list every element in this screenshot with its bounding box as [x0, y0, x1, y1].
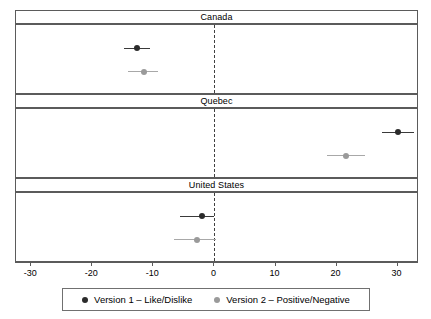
x-axis-tick	[30, 262, 31, 266]
x-axis-tick	[152, 262, 153, 266]
x-axis-tick	[336, 262, 337, 266]
legend-label: Version 1 – Like/Dislike	[94, 295, 192, 305]
x-axis-tick	[213, 262, 214, 266]
x-axis: -30-20-100102030	[15, 262, 418, 284]
x-axis-tick-label: 30	[382, 268, 412, 278]
estimate-point	[199, 213, 205, 219]
x-axis-tick-label: 0	[198, 268, 228, 278]
x-axis-tick	[275, 262, 276, 266]
estimate-point	[343, 153, 349, 159]
interval-mark	[16, 67, 417, 76]
interval-mark	[16, 235, 417, 244]
panel-strip-header: United States	[15, 178, 418, 192]
panel-united-states: United States	[15, 178, 418, 262]
interval-mark	[16, 44, 417, 53]
legend-dot-icon	[214, 297, 220, 303]
x-axis-tick	[91, 262, 92, 266]
estimate-point	[194, 237, 200, 243]
panel-canada: Canada	[15, 10, 418, 94]
x-axis-tick	[397, 262, 398, 266]
zero-reference-line	[214, 25, 215, 93]
estimate-point	[395, 129, 401, 135]
panel-plot-area	[15, 24, 418, 94]
panel-strip-header: Quebec	[15, 94, 418, 108]
zero-reference-line	[214, 109, 215, 177]
panel-strip-label: Canada	[200, 13, 232, 22]
legend-dot-icon	[82, 297, 88, 303]
zero-reference-line	[214, 193, 215, 261]
x-axis-tick-label: -30	[15, 268, 45, 278]
panel-stack: CanadaQuebecUnited States	[15, 10, 418, 262]
panel-plot-area	[15, 192, 418, 262]
estimate-point	[141, 69, 147, 75]
panel-plot-area	[15, 108, 418, 178]
confidence-interval-bar	[180, 216, 214, 217]
panel-strip-label: United States	[189, 181, 244, 190]
x-axis-line	[15, 262, 418, 263]
legend-entry: Version 1 – Like/Dislike	[82, 295, 192, 305]
chart-legend: Version 1 – Like/DislikeVersion 2 – Posi…	[62, 288, 370, 311]
legend-label: Version 2 – Positive/Negative	[226, 295, 350, 305]
coefficient-plot: CanadaQuebecUnited States -30-20-1001020…	[0, 0, 431, 319]
x-axis-tick-label: 10	[260, 268, 290, 278]
estimate-point	[134, 45, 140, 51]
legend-entry: Version 2 – Positive/Negative	[214, 295, 350, 305]
interval-mark	[16, 212, 417, 221]
panel-quebec: Quebec	[15, 94, 418, 178]
panel-strip-label: Quebec	[200, 97, 232, 106]
x-axis-tick-label: -20	[76, 268, 106, 278]
panel-strip-header: Canada	[15, 10, 418, 24]
interval-mark	[16, 151, 417, 160]
interval-mark	[16, 128, 417, 137]
x-axis-tick-label: -10	[137, 268, 167, 278]
x-axis-tick-label: 20	[321, 268, 351, 278]
